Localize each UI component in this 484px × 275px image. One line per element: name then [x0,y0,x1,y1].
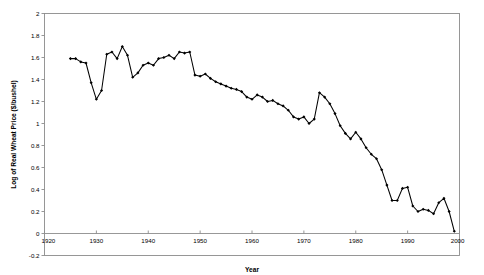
data-point [193,74,196,77]
data-point [219,82,222,85]
data-point [183,52,186,55]
y-tick-label: 0.6 [31,164,40,171]
data-point [422,208,425,211]
data-point [297,118,300,121]
data-point [105,53,108,56]
data-point [385,184,388,187]
x-tick-label: 1990 [401,237,415,244]
x-axis-title: Year [245,266,259,273]
wheat-price-chart: -0.200.20.40.60.811.21.41.61.82192019301… [0,0,484,275]
data-point [225,85,228,88]
y-tick-label: -0.2 [29,252,40,259]
chart-canvas: -0.200.20.40.60.811.21.41.61.82192019301… [0,0,484,275]
data-point [448,210,451,213]
x-tick-label: 1950 [193,237,207,244]
y-axis-title: Log of Real Wheat Price ($/bushel) [10,80,18,188]
y-tick-label: 0.2 [31,208,40,215]
x-tick-label: 1980 [349,237,363,244]
data-point [162,56,165,59]
data-point [453,230,456,233]
y-tick-label: 1 [36,120,40,127]
y-tick-label: 0 [36,230,40,237]
y-tick-label: 1.8 [31,32,40,39]
data-point [391,199,394,202]
data-point [401,187,404,190]
x-tick-label: 1960 [245,237,259,244]
y-tick-label: 0.4 [31,186,40,193]
y-tick-label: 1.2 [31,98,40,105]
y-tick-label: 2 [36,10,40,17]
x-tick-label: 1940 [141,237,155,244]
data-point [230,87,233,90]
data-point [90,81,93,84]
x-tick-label: 1970 [297,237,311,244]
x-tick-label: 1930 [89,237,103,244]
x-tick-label: 2000 [451,237,465,244]
plot-frame [45,14,460,256]
y-tick-label: 1.4 [31,76,40,83]
y-tick-label: 0.8 [31,142,40,149]
y-tick-label: 1.6 [31,54,40,61]
data-point [235,88,238,91]
x-tick-label: 1920 [42,237,56,244]
series-line-wheat-price [70,47,454,232]
data-point [406,186,409,189]
data-point [188,50,191,53]
data-point [69,57,72,60]
data-point [147,61,150,64]
data-point [84,61,87,64]
data-point [199,75,202,78]
data-point [396,199,399,202]
